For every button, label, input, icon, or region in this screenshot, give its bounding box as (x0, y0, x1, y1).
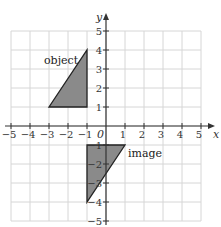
y-tick-label: −1 (87, 140, 102, 151)
coordinate-grid: −5−4−3−2−11234554321−1−2−3−4−5 x y 0 obj… (0, 0, 221, 227)
y-tick-label: 1 (96, 102, 102, 113)
x-tick-label: 2 (139, 129, 145, 140)
x-tick-label: −3 (40, 129, 55, 140)
y-tick-label: 2 (96, 83, 102, 94)
x-tick-label: −2 (59, 129, 74, 140)
x-tick-label: 1 (120, 129, 126, 140)
x-tick-label: −4 (21, 129, 36, 140)
y-tick-label: −5 (87, 216, 102, 227)
x-tick-label: −5 (2, 129, 17, 140)
x-tick-label: 5 (196, 129, 202, 140)
y-axis-label: y (95, 11, 103, 24)
y-tick-label: −3 (87, 178, 102, 189)
origin-label: 0 (97, 128, 104, 141)
y-tick-label: 3 (96, 64, 102, 75)
object-label: object (44, 54, 79, 67)
x-tick-label: −1 (78, 129, 93, 140)
y-tick-label: −2 (87, 159, 102, 170)
y-tick-label: −4 (87, 197, 102, 208)
x-tick-label: 3 (158, 129, 164, 140)
image-label: image (128, 147, 162, 160)
y-tick-label: 5 (96, 26, 102, 37)
x-tick-label: 4 (177, 129, 183, 140)
y-tick-label: 4 (96, 45, 102, 56)
axes (5, 13, 215, 225)
y-axis-arrow-icon (103, 13, 109, 20)
x-axis-label: x (213, 128, 220, 141)
